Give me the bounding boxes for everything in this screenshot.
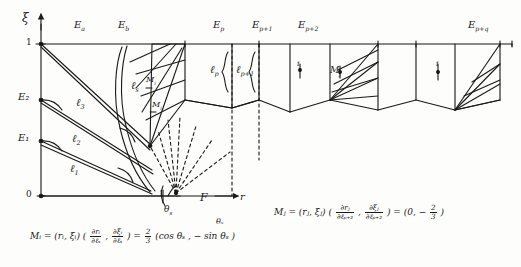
formula-left: Mᵢ = (rᵢ, ξᵢ) ( ∂rᵢ ∂ℓₛ , ∂ξᵢ ∂ℓₛ ) = 2 …	[30, 228, 235, 244]
fan3-b	[455, 64, 500, 110]
fan3-r2	[472, 64, 500, 82]
curve-label-ls: ℓs	[131, 80, 139, 94]
formula-right-rhs-close: )	[441, 207, 445, 217]
point-label-Mj-base: M	[330, 65, 339, 75]
formula-left-grad1: ∂rᵢ ∂ℓₛ	[90, 228, 101, 244]
formula-right-grad-sep: ,	[358, 207, 361, 217]
top-label-Ep1-sub: p+1	[259, 25, 272, 32]
vertex-dot-pivot	[148, 144, 151, 147]
formula-right-grad1: ∂rⱼ ∂ℓₚ₊₂	[336, 204, 354, 220]
line-l2-b	[41, 103, 153, 174]
formula-left-equals: =	[133, 231, 141, 241]
top-label-Ep: Ep	[213, 20, 224, 32]
dot-label-i: i	[297, 60, 300, 68]
ray-dash-2	[158, 130, 176, 193]
top-label-Ep2-sub: p+2	[305, 25, 318, 32]
formula-left-grad-close: )	[127, 231, 131, 241]
formula-right-rhs-open: (0, −	[404, 207, 427, 217]
top-label-Ep1: Ep+1	[252, 20, 272, 32]
curve-label-l2-sub: 2	[76, 139, 80, 147]
formula-left-angle-mark: θₛ	[216, 218, 224, 226]
vertex-dot-F	[174, 191, 177, 194]
tick-label-one: 1	[159, 190, 164, 198]
curve-label-lp: ℓp	[210, 64, 219, 78]
formula-left-grad2: ∂ξᵢ ∂ℓₛ	[112, 228, 123, 244]
top-label-Eb-sub: b	[125, 25, 129, 32]
curve-label-lp1: ℓp+1	[236, 64, 254, 78]
formula-left-grad-sep: ,	[105, 231, 108, 241]
vertex-dot-a	[39, 42, 43, 46]
curve-label-l1-sub: 1	[74, 169, 78, 177]
zig-5	[330, 100, 378, 110]
figure-canvas: ξ r 1 E₂ E₁ 0 Ea Eb Ep Ep+1 Ep+2 Ep+q ℓ1…	[0, 0, 521, 267]
formula-left-grad2-den: ∂ℓₛ	[112, 237, 123, 245]
formula-left-lhs: Mᵢ = (rᵢ, ξᵢ)	[30, 231, 80, 241]
zig-1	[185, 100, 232, 108]
ray-dash-3	[168, 120, 176, 193]
curve-label-lp-sub: p	[214, 70, 218, 78]
line-l2-a	[41, 100, 152, 170]
point-label-Mi-upper-base: M	[146, 75, 154, 84]
x-axis-label: r	[240, 192, 245, 202]
formula-left-coef: 2 3	[145, 228, 152, 244]
zig-4	[290, 100, 330, 112]
curve-label-l1: ℓ1	[70, 163, 79, 177]
top-label-Epq-sub: p+q	[475, 25, 488, 32]
zig-2	[232, 100, 259, 108]
formula-right-rhs-frac: 2 3	[430, 204, 437, 220]
formula-right-rhs-den: 3	[430, 213, 437, 221]
top-label-Ea-sub: a	[81, 25, 85, 32]
line-l1-a	[41, 141, 151, 191]
formula-right-grad1-den: ∂ℓₚ₊₂	[336, 213, 354, 221]
formula-right-grad-open: (	[329, 207, 333, 217]
formula-right: Mⱼ = (rⱼ, ξⱼ) ( ∂rⱼ ∂ℓₚ₊₂ , ∂ξⱼ ∂ℓₚ₊₂ ) …	[274, 204, 444, 220]
ray-dash-7	[176, 152, 230, 193]
angle-label-theta-sub: s	[169, 210, 172, 216]
curve-label-l2: ℓ2	[72, 133, 81, 147]
top-label-Ep2: Ep+2	[298, 20, 318, 32]
point-label-Mj-sub: j	[339, 71, 341, 77]
zig-3	[259, 100, 290, 112]
fan3-c	[455, 84, 500, 110]
top-label-Ea: Ea	[74, 20, 85, 32]
curve-label-l3-sub: 3	[80, 103, 84, 111]
formula-right-grad2: ∂ξⱼ ∂ℓₚ₊₂	[365, 204, 383, 220]
formula-right-lhs: Mⱼ = (rⱼ, ξⱼ)	[274, 207, 326, 217]
formula-right-equals: =	[393, 207, 401, 217]
fan-diag-1	[130, 44, 170, 62]
formula-left-rhs: (cos θₛ , − sin θₛ )	[155, 231, 235, 241]
point-label-Mi-upper: Mi	[146, 76, 156, 86]
vertex-dot-c	[39, 139, 43, 143]
point-label-Mi-lower-base: M	[152, 100, 160, 109]
point-label-Mj: Mj	[330, 66, 341, 77]
zig-7	[416, 100, 455, 110]
y-tick-1: 1	[26, 38, 32, 47]
top-label-Ep-sub: p	[220, 25, 224, 32]
fan3-d	[455, 100, 500, 110]
fan3-a	[455, 44, 500, 110]
curve-label-ls-sub: s	[135, 86, 138, 94]
ray-dash-6	[176, 140, 212, 193]
curve-label-l3: ℓ3	[76, 97, 85, 111]
angle-label-theta: θs	[164, 205, 172, 216]
brace-lp	[222, 52, 228, 92]
vertex-dot-d	[39, 194, 43, 198]
formula-left-grad1-den: ∂ℓₛ	[90, 237, 101, 245]
formula-right-grad-close: )	[387, 207, 391, 217]
formula-left-coef-den: 3	[145, 237, 152, 245]
point-label-F: F	[200, 192, 208, 203]
strip-ls-left	[116, 47, 150, 192]
y-tick-E1: E₁	[18, 133, 29, 143]
dot-label-k: i	[436, 60, 439, 68]
formula-left-grad-open: (	[83, 231, 87, 241]
top-label-Epq: Ep+q	[468, 20, 488, 32]
y-axis-label: ξ	[22, 12, 29, 24]
point-label-Mi-lower: Mi	[152, 101, 162, 111]
vertex-dot-b	[39, 98, 43, 102]
point-label-Mi-lower-sub: i	[160, 105, 162, 111]
top-label-Eb: Eb	[118, 20, 129, 32]
zig-6	[378, 100, 416, 110]
curve-label-lp1-sub: p+1	[240, 70, 254, 78]
formula-right-grad2-den: ∂ℓₚ₊₂	[365, 213, 383, 221]
point-label-Mi-upper-sub: i	[154, 80, 156, 86]
